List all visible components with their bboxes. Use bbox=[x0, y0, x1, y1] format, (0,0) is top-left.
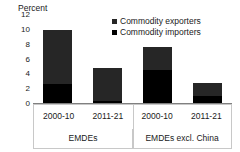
group-label-emdes: EMDEs bbox=[34, 129, 132, 148]
group-label-emdes-excl-china: EMDEs excl. China bbox=[132, 129, 231, 148]
x-label-emdes-excl-china-2011-21: 2011-21 bbox=[182, 105, 231, 128]
y-tick-label-4: 4 bbox=[26, 70, 30, 78]
bar-emdes-2000-10 bbox=[43, 30, 72, 103]
bar-emdes-2011-21-segment-importers bbox=[93, 101, 122, 103]
bar-emdes-excl-china-2000-10-segment-importers bbox=[143, 70, 172, 103]
bar-emdes-excl-china-2011-21 bbox=[193, 83, 222, 103]
y-tick-label-6: 6 bbox=[26, 56, 30, 64]
bar-emdes-2011-21-segment-exporters bbox=[93, 68, 122, 101]
chart-container: Percent Commodity exporters Commodity im… bbox=[0, 0, 240, 152]
y-tick-label-0: 0 bbox=[26, 100, 30, 108]
bar-emdes-2000-10-segment-exporters bbox=[43, 30, 72, 84]
y-tick-label-12: 12 bbox=[21, 11, 30, 19]
bar-emdes-excl-china-2000-10-segment-exporters bbox=[143, 47, 172, 70]
bar-emdes-excl-china-2011-21-segment-importers bbox=[193, 96, 222, 103]
y-tick-label-10: 10 bbox=[21, 26, 30, 34]
y-tick-label-8: 8 bbox=[26, 41, 30, 49]
category-label-frame: 2000-10 2011-21 2000-10 2011-21 EMDEs EM… bbox=[33, 104, 232, 149]
bar-emdes-excl-china-2000-10 bbox=[143, 47, 172, 103]
bar-emdes-excl-china-2011-21-segment-exporters bbox=[193, 83, 222, 96]
y-tick-label-2: 2 bbox=[26, 85, 30, 93]
group-divider bbox=[133, 105, 134, 148]
x-label-emdes-2000-10: 2000-10 bbox=[34, 105, 83, 128]
bar-emdes-2000-10-segment-importers bbox=[43, 84, 72, 103]
plot-area: 0 2 4 6 8 10 12 bbox=[33, 15, 232, 104]
x-label-emdes-excl-china-2000-10: 2000-10 bbox=[133, 105, 182, 128]
x-label-emdes-2011-21: 2011-21 bbox=[83, 105, 132, 128]
bar-emdes-2011-21 bbox=[93, 68, 122, 103]
